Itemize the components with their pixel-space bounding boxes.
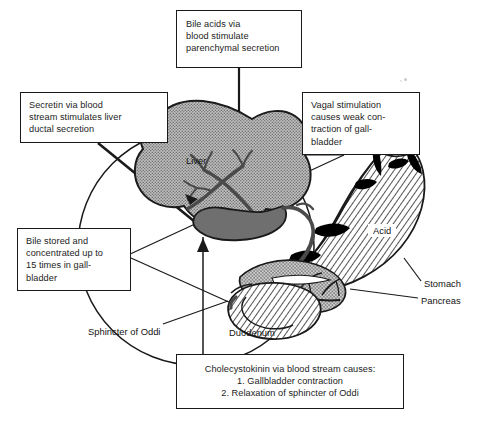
label-pancreas: Pancreas [421, 295, 461, 306]
callout-vagal-stimulation: Vagal stimulation causes weak con- tract… [302, 92, 420, 155]
bile-secretion-diagram: Bile acids via blood stimulate parenchym… [0, 0, 482, 421]
callout-bile-stored: Bile stored and concentrated up to 15 ti… [17, 228, 131, 291]
callout-secretin-text: Secretin via blood stream stimulates liv… [29, 99, 167, 136]
cck-heading: Cholecystokinin via blood stream causes: [177, 363, 403, 375]
cck-item-1: 1. Gallbladder contraction [177, 375, 403, 387]
leader-sphincter [163, 301, 228, 324]
callout-vagal-text: Vagal stimulation causes weak con- tract… [311, 99, 419, 148]
callout-bile-acids: Bile acids via blood stimulate parenchym… [176, 10, 302, 68]
label-stomach: Stomach [424, 278, 461, 289]
cck-item-2: 2. Relaxation of sphincter of Oddi [177, 387, 403, 399]
leader-pancreas [350, 289, 418, 298]
leader-stomach [404, 258, 421, 281]
callout-secretin: Secretin via blood stream stimulates liv… [20, 92, 168, 143]
callout-cholecystokinin: Cholecystokinin via blood stream causes:… [176, 354, 404, 409]
label-liver: Liver [186, 155, 206, 166]
scan-speck [404, 78, 407, 81]
callout-bile-acids-text: Bile acids via blood stimulate parenchym… [186, 18, 301, 55]
label-sphincter-of-oddi: Sphincter of Oddi [88, 326, 160, 337]
label-acid: Acid [368, 224, 396, 237]
label-duodenum: Duodenum [229, 327, 275, 338]
leader-bile-stored [131, 258, 231, 303]
callout-bile-stored-text: Bile stored and concentrated up to 15 ti… [26, 235, 130, 284]
scan-speck [400, 80, 402, 82]
